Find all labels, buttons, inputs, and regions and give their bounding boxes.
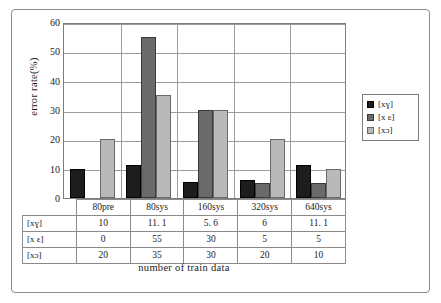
- table-row: [x ɛ]0553055: [23, 232, 346, 248]
- bar: [270, 139, 285, 198]
- bar-group: [290, 24, 347, 198]
- bar: [183, 182, 198, 198]
- chart-plot-area: [63, 23, 346, 199]
- legend-item: [xɔ]: [367, 124, 415, 137]
- bar: [213, 110, 228, 198]
- bar: [70, 169, 85, 198]
- table-column-header: 640sys: [292, 200, 346, 216]
- chart-data-table: 80pre80sys160sys320sys640sys [xɣ]1011. 1…: [22, 199, 346, 264]
- table-cell: 0: [76, 232, 130, 248]
- bar: [326, 169, 341, 198]
- bar-group: [177, 24, 234, 198]
- table-column-header: 80pre: [76, 200, 130, 216]
- chart-legend: [xɣ][x ɛ][xɔ]: [362, 94, 419, 141]
- bar: [126, 165, 141, 198]
- y-tick-label: 30: [34, 106, 60, 116]
- y-tick-label: 20: [34, 135, 60, 145]
- bar: [198, 110, 213, 198]
- legend-label: [xɔ]: [378, 126, 393, 135]
- table-column-header: 320sys: [238, 200, 292, 216]
- y-tick-label: 50: [34, 47, 60, 57]
- table-cell: 5: [238, 232, 292, 248]
- table-cell: 6: [238, 216, 292, 232]
- y-tick-label: 60: [34, 18, 60, 28]
- table-cell: 30: [184, 232, 238, 248]
- y-tick-label: 10: [34, 165, 60, 175]
- bar: [100, 139, 115, 198]
- legend-swatch-icon: [367, 127, 374, 134]
- table-column-header: 80sys: [130, 200, 184, 216]
- bar: [255, 183, 270, 198]
- legend-swatch-icon: [367, 114, 374, 121]
- bar-group: [64, 24, 121, 198]
- table-header: 80pre80sys160sys320sys640sys: [23, 200, 346, 216]
- bar: [141, 37, 156, 198]
- table-cell: 11. 1: [292, 216, 346, 232]
- plot-frame: [63, 23, 346, 199]
- bar-group: [121, 24, 178, 198]
- table-cell: 5. 6: [184, 216, 238, 232]
- table-cell: 10: [76, 216, 130, 232]
- table-cell: 5: [292, 232, 346, 248]
- bar: [296, 165, 311, 198]
- x-axis-title: number of train data: [22, 262, 346, 273]
- table-header-row: 80pre80sys160sys320sys640sys: [23, 200, 346, 216]
- legend-label: [x ɛ]: [378, 113, 395, 122]
- table-row: [xɣ]1011. 15. 6611. 1: [23, 216, 346, 232]
- figure-page: error rate(%) 0102030405060 [xɣ][x ɛ][xɔ…: [0, 0, 441, 303]
- bar-group: [234, 24, 291, 198]
- table-cell: 55: [130, 232, 184, 248]
- table-row-header: [x ɛ]: [23, 232, 77, 248]
- legend-item: [x ɛ]: [367, 111, 415, 124]
- y-axis-ticks: 0102030405060: [30, 23, 60, 199]
- y-tick-label: 40: [34, 77, 60, 87]
- legend-label: [xɣ]: [378, 100, 393, 109]
- bar: [311, 183, 326, 198]
- table-body: [xɣ]1011. 15. 6611. 1[x ɛ]0553055[xɔ]203…: [23, 216, 346, 264]
- table-corner-cell: [23, 200, 77, 216]
- legend-swatch-icon: [367, 101, 374, 108]
- legend-item: [xɣ]: [367, 98, 415, 111]
- bar: [240, 180, 255, 198]
- table-cell: 11. 1: [130, 216, 184, 232]
- table-row-header: [xɣ]: [23, 216, 77, 232]
- bar: [156, 95, 171, 198]
- table-column-header: 160sys: [184, 200, 238, 216]
